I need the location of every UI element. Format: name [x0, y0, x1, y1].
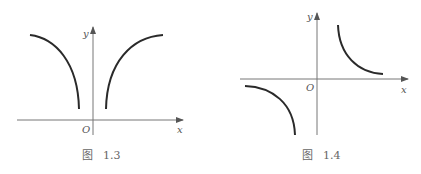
- figures-canvas: y O x 图1.3 y O x 图1.4: [0, 0, 421, 174]
- x-axis-label: x: [401, 84, 407, 95]
- origin-label: O: [306, 82, 314, 93]
- figure-1-4: y O x 图1.4: [240, 11, 408, 162]
- first-quadrant-curve: [338, 25, 383, 74]
- figure-1-3: y O x 图1.3: [17, 27, 183, 162]
- figure-caption: 图1.4: [302, 149, 341, 162]
- y-axis-label: y: [82, 28, 89, 39]
- third-quadrant-curve: [245, 86, 295, 135]
- y-axis-label: y: [306, 11, 313, 22]
- origin-label: O: [82, 124, 90, 135]
- right-curve: [106, 35, 163, 109]
- x-axis-label: x: [177, 124, 183, 135]
- left-curve: [30, 35, 79, 109]
- figure-caption: 图1.3: [82, 149, 121, 162]
